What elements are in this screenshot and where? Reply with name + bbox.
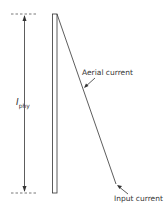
aerial-current-label: Aerial current: [82, 68, 133, 77]
antenna-pole: [53, 14, 58, 193]
current-distribution-line: [57, 14, 116, 184]
dimension-label: Iphy: [16, 97, 30, 109]
bottom-arrowhead-icon: [23, 186, 27, 192]
top-arrowhead-icon: [23, 15, 27, 21]
input-current-label: Input current: [114, 194, 163, 203]
